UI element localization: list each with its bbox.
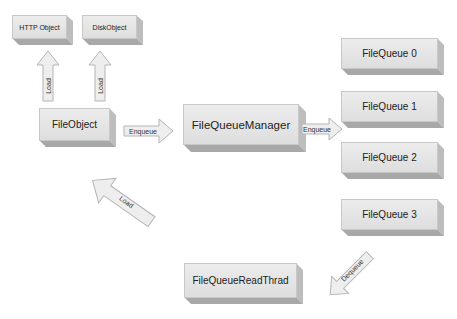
node-label: FileQueueManager [183, 104, 299, 145]
node-label: HTTP Object [12, 15, 67, 39]
node-label: FileQueue 2 [341, 142, 438, 173]
load-arrow-http: Load [36, 50, 60, 102]
dequeue-arrow: Dequeue [320, 245, 380, 305]
enqueue-arrow-manager: Enqueue [123, 118, 175, 144]
enqueue-arrow-queues: Enqueue [301, 117, 343, 141]
svg-text:Enqueue: Enqueue [303, 126, 331, 134]
node-label: FileObject [39, 108, 110, 141]
node-label: FileQueue 0 [341, 38, 438, 69]
svg-text:Load: Load [45, 78, 52, 94]
load-arrow-back: Load [82, 168, 162, 238]
node-label: DiskObject [82, 15, 137, 39]
load-arrow-disk: Load [88, 50, 112, 102]
node-label: FileQueue 1 [341, 91, 438, 122]
svg-text:Enqueue: Enqueue [129, 128, 157, 136]
node-label: FileQueueReadThrad [184, 263, 297, 298]
node-label: FileQueue 3 [341, 199, 438, 230]
svg-text:Load: Load [97, 78, 104, 94]
